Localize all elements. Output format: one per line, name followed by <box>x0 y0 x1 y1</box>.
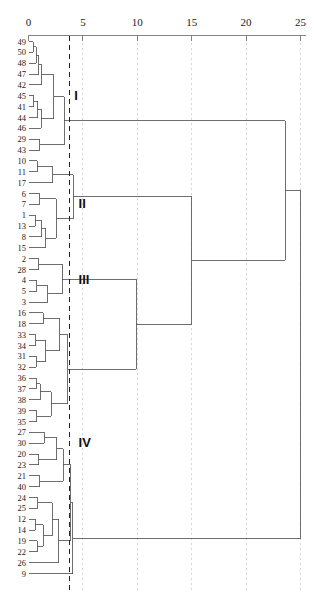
leaf-label: 35 <box>8 417 26 426</box>
cluster-label-i: I <box>74 89 78 102</box>
leaf-label: 22 <box>8 547 26 556</box>
leaf-label: 42 <box>8 80 26 89</box>
leaf-label: 6 <box>8 189 26 198</box>
leaf-label: 34 <box>8 341 26 350</box>
leaf-label: 24 <box>8 493 26 502</box>
leaf-label: 37 <box>8 384 26 393</box>
cluster-label-ii: II <box>79 197 86 210</box>
axis-tick-label: 20 <box>241 16 252 28</box>
leaf-label: 40 <box>8 482 26 491</box>
leaf-label: 10 <box>8 156 26 165</box>
leaf-label: 39 <box>8 406 26 415</box>
leaf-label: 36 <box>8 374 26 383</box>
leaf-label: 7 <box>8 200 26 209</box>
dendrogram-plot <box>0 0 316 598</box>
leaf-label: 50 <box>8 48 26 57</box>
leaf-label: 28 <box>8 265 26 274</box>
leaf-label: 5 <box>8 287 26 296</box>
leaf-label: 17 <box>8 178 26 187</box>
axis-tick-label: 10 <box>132 16 143 28</box>
axis-tick-label: 0 <box>26 16 32 28</box>
dendrogram-chart: 0510152025 49504847424541444629431011176… <box>0 0 316 598</box>
leaf-label: 3 <box>8 298 26 307</box>
leaf-label: 13 <box>8 222 26 231</box>
leaf-label: 27 <box>8 428 26 437</box>
leaf-label: 18 <box>8 319 26 328</box>
leaf-label: 45 <box>8 91 26 100</box>
leaf-label: 47 <box>8 70 26 79</box>
leaf-label: 49 <box>8 37 26 46</box>
cluster-label-iii: III <box>79 273 90 286</box>
leaf-label: 25 <box>8 504 26 513</box>
leaf-label: 38 <box>8 395 26 404</box>
leaf-label: 30 <box>8 439 26 448</box>
leaf-label: 1 <box>8 211 26 220</box>
leaf-label: 15 <box>8 243 26 252</box>
leaf-label: 31 <box>8 352 26 361</box>
leaf-label: 26 <box>8 558 26 567</box>
leaf-label: 14 <box>8 526 26 535</box>
leaf-label: 16 <box>8 308 26 317</box>
leaf-label: 12 <box>8 515 26 524</box>
leaf-label: 29 <box>8 135 26 144</box>
leaf-label: 21 <box>8 471 26 480</box>
leaf-label: 48 <box>8 59 26 68</box>
leaf-label: 46 <box>8 124 26 133</box>
axis-tick-label: 25 <box>295 16 306 28</box>
leaf-label: 32 <box>8 363 26 372</box>
leaf-label: 8 <box>8 232 26 241</box>
leaf-label: 4 <box>8 276 26 285</box>
leaf-label: 19 <box>8 536 26 545</box>
leaf-label: 2 <box>8 254 26 263</box>
cluster-label-iv: IV <box>79 436 91 449</box>
leaf-label: 23 <box>8 460 26 469</box>
leaf-label: 44 <box>8 113 26 122</box>
leaf-label: 11 <box>8 167 26 176</box>
leaf-label: 43 <box>8 146 26 155</box>
leaf-label: 33 <box>8 330 26 339</box>
leaf-label: 20 <box>8 450 26 459</box>
axis-tick-label: 5 <box>80 16 86 28</box>
axis-tick-label: 15 <box>186 16 197 28</box>
leaf-label: 41 <box>8 102 26 111</box>
leaf-label: 9 <box>8 569 26 578</box>
